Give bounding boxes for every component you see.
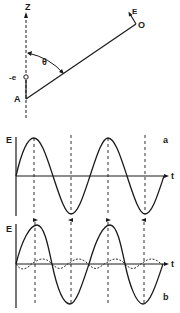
- t-axis-label: t: [171, 259, 174, 269]
- shift-arrow-icon: [141, 218, 146, 222]
- observer-label: O: [138, 20, 145, 30]
- panel-b: E t b: [6, 218, 174, 308]
- shift-arrow-icon: [68, 218, 73, 222]
- t-axis-arrow-icon: [164, 174, 169, 178]
- point-a-label: A: [14, 94, 21, 104]
- angle-label: θ: [42, 57, 47, 67]
- angle-arrow-left-icon: [27, 51, 32, 56]
- field-label: E: [132, 7, 138, 16]
- shift-arrow-icon: [33, 218, 38, 222]
- e-axis-label: E: [6, 135, 12, 145]
- geometry-diagram: Z -e A E O θ: [9, 2, 145, 118]
- shift-arrow-icon: [106, 218, 111, 222]
- panel-label: b: [163, 292, 169, 302]
- e-axis-label: E: [6, 224, 12, 234]
- z-axis-label: Z: [25, 2, 31, 12]
- charge-label: -e: [9, 73, 17, 82]
- dipole-radiation-figure: Z -e A E O θ E t a: [0, 0, 180, 313]
- t-axis-arrow-icon: [164, 262, 169, 266]
- z-axis-arrow-icon: [24, 12, 28, 18]
- t-axis-label: t: [171, 171, 174, 181]
- panel-label: a: [163, 135, 169, 145]
- charge-circle-icon: [24, 75, 28, 79]
- panel-a: E t a: [6, 135, 174, 216]
